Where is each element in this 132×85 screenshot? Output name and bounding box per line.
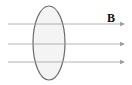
field-label-b: B xyxy=(107,11,115,26)
current-loop xyxy=(33,6,65,80)
field-lines xyxy=(8,24,124,62)
